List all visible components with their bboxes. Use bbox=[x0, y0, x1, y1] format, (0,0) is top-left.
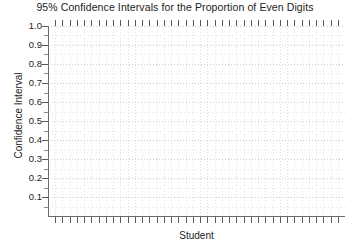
x-tick-top bbox=[106, 20, 107, 26]
x-tick bbox=[229, 217, 230, 223]
y-tick-label: 0.1 bbox=[2, 192, 42, 201]
x-tick-top bbox=[302, 20, 303, 26]
x-tick bbox=[222, 217, 223, 223]
x-tick-top bbox=[287, 20, 288, 26]
y-tick-major bbox=[42, 64, 48, 65]
x-axis-title: Student bbox=[48, 230, 345, 241]
x-tick bbox=[273, 217, 274, 223]
y-tick-major bbox=[42, 140, 48, 141]
x-tick bbox=[142, 217, 143, 223]
y-tick-major bbox=[42, 121, 48, 122]
x-tick bbox=[178, 217, 179, 223]
x-tick bbox=[120, 217, 121, 223]
y-tick-major bbox=[42, 159, 48, 160]
x-tick-top bbox=[193, 20, 194, 26]
x-tick-top bbox=[207, 20, 208, 26]
x-tick-top bbox=[113, 20, 114, 26]
x-tick-top bbox=[178, 20, 179, 26]
y-tick-minor bbox=[44, 93, 48, 94]
x-tick-top bbox=[229, 20, 230, 26]
x-tick-top bbox=[294, 20, 295, 26]
x-tick-top bbox=[338, 20, 339, 26]
x-tick-top bbox=[280, 20, 281, 26]
x-tick-top bbox=[70, 20, 71, 26]
x-tick bbox=[77, 217, 78, 223]
x-tick bbox=[287, 217, 288, 223]
x-tick bbox=[135, 217, 136, 223]
x-tick-top bbox=[331, 20, 332, 26]
x-tick bbox=[294, 217, 295, 223]
x-tick-top bbox=[149, 20, 150, 26]
y-tick-label: 1.0 bbox=[2, 21, 42, 30]
x-tick-top bbox=[309, 20, 310, 26]
x-tick-top bbox=[236, 20, 237, 26]
grid-lines bbox=[48, 26, 345, 216]
y-tick-minor bbox=[44, 207, 48, 208]
x-tick-top bbox=[77, 20, 78, 26]
x-axis-line bbox=[48, 216, 345, 217]
x-tick bbox=[157, 217, 158, 223]
x-tick-top bbox=[171, 20, 172, 26]
x-tick-top bbox=[222, 20, 223, 26]
x-tick bbox=[309, 217, 310, 223]
x-tick bbox=[280, 217, 281, 223]
x-tick bbox=[128, 217, 129, 223]
x-tick-top bbox=[200, 20, 201, 26]
x-tick bbox=[70, 217, 71, 223]
y-tick-minor bbox=[44, 188, 48, 189]
y-axis-line bbox=[48, 26, 49, 216]
y-tick-minor bbox=[44, 131, 48, 132]
y-axis-title: Confidence Interval bbox=[13, 46, 24, 186]
x-tick bbox=[331, 217, 332, 223]
x-tick bbox=[55, 217, 56, 223]
x-tick bbox=[193, 217, 194, 223]
x-tick-top bbox=[164, 20, 165, 26]
plot-area[interactable] bbox=[48, 26, 345, 216]
y-tick-minor bbox=[44, 169, 48, 170]
y-tick-major bbox=[42, 178, 48, 179]
x-tick-top bbox=[99, 20, 100, 26]
x-tick bbox=[207, 217, 208, 223]
x-tick bbox=[186, 217, 187, 223]
x-tick-top bbox=[186, 20, 187, 26]
x-tick-top bbox=[120, 20, 121, 26]
x-tick-top bbox=[62, 20, 63, 26]
y-tick-major bbox=[42, 197, 48, 198]
x-tick bbox=[244, 217, 245, 223]
x-tick-top bbox=[157, 20, 158, 26]
y-tick-minor bbox=[44, 35, 48, 36]
x-tick bbox=[323, 217, 324, 223]
x-tick bbox=[258, 217, 259, 223]
y-tick-major bbox=[42, 83, 48, 84]
x-tick bbox=[91, 217, 92, 223]
x-tick-top bbox=[244, 20, 245, 26]
chart-title: 95% Confidence Intervals for the Proport… bbox=[0, 1, 350, 13]
x-tick bbox=[84, 217, 85, 223]
y-tick-minor bbox=[44, 73, 48, 74]
x-tick bbox=[316, 217, 317, 223]
x-tick-top bbox=[251, 20, 252, 26]
x-tick-top bbox=[91, 20, 92, 26]
y-tick-minor bbox=[44, 54, 48, 55]
x-tick bbox=[113, 217, 114, 223]
x-tick bbox=[302, 217, 303, 223]
chart-root: 95% Confidence Intervals for the Proport… bbox=[0, 0, 350, 246]
x-tick-top bbox=[265, 20, 266, 26]
x-tick-top bbox=[84, 20, 85, 26]
y-tick-minor bbox=[44, 150, 48, 151]
x-tick-top bbox=[55, 20, 56, 26]
x-tick bbox=[164, 217, 165, 223]
x-tick bbox=[62, 217, 63, 223]
x-tick bbox=[338, 217, 339, 223]
y-tick-minor bbox=[44, 112, 48, 113]
x-tick bbox=[171, 217, 172, 223]
x-tick bbox=[99, 217, 100, 223]
x-tick bbox=[236, 217, 237, 223]
y-tick-major bbox=[42, 45, 48, 46]
y-tick-major bbox=[42, 26, 48, 27]
x-tick-top bbox=[142, 20, 143, 26]
x-tick-top bbox=[273, 20, 274, 26]
x-tick bbox=[215, 217, 216, 223]
x-tick bbox=[200, 217, 201, 223]
x-tick bbox=[149, 217, 150, 223]
